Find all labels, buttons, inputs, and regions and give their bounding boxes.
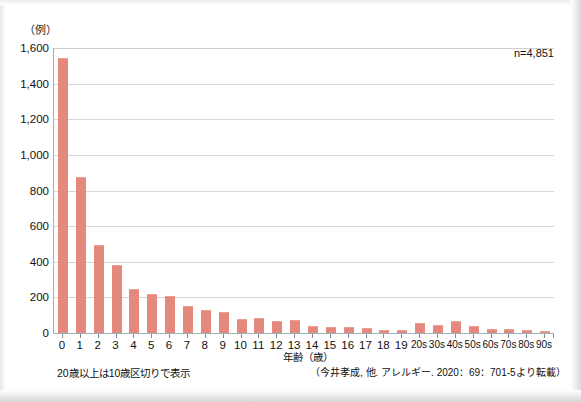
x-axis-tick-label: 10 [234, 339, 247, 351]
bar [344, 327, 354, 333]
bar [504, 329, 514, 333]
x-axis-tick-label: 60s [482, 339, 498, 350]
gridline [54, 262, 554, 263]
x-axis-tick [205, 334, 206, 338]
gridline [54, 191, 554, 192]
x-axis-tick-label: 1 [77, 339, 83, 351]
x-axis-tick-label: 2 [94, 339, 100, 351]
bar [201, 310, 211, 333]
y-axis-tick-label: 0 [3, 327, 49, 339]
y-axis-tick-label: 1,400 [3, 78, 49, 90]
x-axis-tick-label: 70s [500, 339, 516, 350]
bar [379, 330, 389, 333]
bar [415, 323, 425, 333]
x-axis-tick [116, 334, 117, 338]
bar [183, 306, 193, 333]
x-axis-tick [294, 334, 295, 338]
bar [129, 289, 139, 333]
gridline [54, 226, 554, 227]
y-axis-tick-label: 600 [3, 220, 49, 232]
x-axis-tick-label: 0 [59, 339, 65, 351]
bar [451, 321, 461, 333]
x-axis-tick [437, 334, 438, 338]
y-axis-tick-label: 1,200 [3, 113, 49, 125]
x-axis-tick-label: 5 [148, 339, 154, 351]
x-axis-tick [419, 334, 420, 338]
bar [308, 326, 318, 333]
x-axis-tick-label: 40s [447, 339, 463, 350]
x-axis-tick [544, 334, 545, 338]
x-axis-title: 年齢（歳） [283, 349, 333, 364]
bar [290, 320, 300, 333]
bar [237, 319, 247, 333]
bar [94, 245, 104, 333]
bar [58, 58, 68, 333]
bar [76, 177, 86, 333]
x-axis-tick [526, 334, 527, 338]
x-axis-tick-label: 7 [184, 339, 190, 351]
gridline [54, 155, 554, 156]
x-axis-tick [98, 334, 99, 338]
x-axis-tick [383, 334, 384, 338]
x-axis-tick [80, 334, 81, 338]
bar [362, 328, 372, 333]
plot-area [53, 48, 554, 334]
gridline [54, 48, 554, 49]
x-axis-tick-label: 11 [252, 339, 264, 351]
x-axis-tick-label: 19 [395, 339, 408, 351]
bar [254, 318, 264, 333]
x-axis-tick [258, 334, 259, 338]
x-axis-tick-label: 17 [359, 339, 372, 351]
x-axis-tick-label: 12 [270, 339, 283, 351]
y-axis-tick-label: 800 [3, 185, 49, 197]
x-axis-tick [348, 334, 349, 338]
y-axis-tick-label: 200 [3, 291, 49, 303]
footnote-right: （今井孝成, 他. アレルギー. 2020：69：701-5より転載） [310, 364, 566, 379]
bar [433, 325, 443, 333]
x-axis-tick [473, 334, 474, 338]
x-axis-tick [223, 334, 224, 338]
x-axis-tick [455, 334, 456, 338]
page-edge-bottom [0, 390, 581, 402]
bar [147, 294, 157, 333]
x-axis-tick-label: 50s [465, 339, 481, 350]
x-axis-tick [366, 334, 367, 338]
x-axis-tick-label: 90s [536, 339, 552, 350]
bar [397, 330, 407, 333]
bar [219, 312, 229, 333]
x-axis-tick [508, 334, 509, 338]
x-axis-tick-label: 9 [219, 339, 225, 351]
y-axis-tick-label: 1,600 [3, 42, 49, 54]
x-axis-tick [330, 334, 331, 338]
x-axis-tick [491, 334, 492, 338]
y-axis-unit-label: （例） [24, 21, 57, 37]
x-axis-tick [276, 334, 277, 338]
x-axis-tick [62, 334, 63, 338]
y-axis-tick-labels: 02004006008001,0001,2001,4001,600 [0, 48, 49, 333]
gridline [54, 119, 554, 120]
x-axis-tick-label: 30s [429, 339, 445, 350]
bar [487, 329, 497, 333]
x-axis-tick [133, 334, 134, 338]
chart-page: （例） n=4,851 02004006008001,0001,2001,400… [0, 0, 581, 402]
x-axis-tick [401, 334, 402, 338]
bar [522, 330, 532, 333]
x-axis-tick-label: 18 [377, 339, 390, 351]
y-axis-tick-label: 400 [3, 256, 49, 268]
x-axis-tick [169, 334, 170, 338]
x-axis-tick-end [553, 334, 554, 338]
x-axis-tick-label: 16 [341, 339, 354, 351]
bar [326, 327, 336, 333]
page-edge-right [571, 0, 581, 402]
x-axis-tick-label: 80s [518, 339, 534, 350]
y-axis-tick-label: 1,000 [3, 149, 49, 161]
x-axis-tick [241, 334, 242, 338]
bar [165, 296, 175, 333]
x-axis-tick-label: 20s [411, 339, 427, 350]
bar [272, 321, 282, 333]
x-axis-tick [187, 334, 188, 338]
bar [540, 331, 550, 333]
x-axis-tick-label: 8 [202, 339, 208, 351]
page-edge-top [0, 0, 581, 5]
footnote-left: 20歳以上は10歳区切りで表示 [57, 365, 190, 380]
